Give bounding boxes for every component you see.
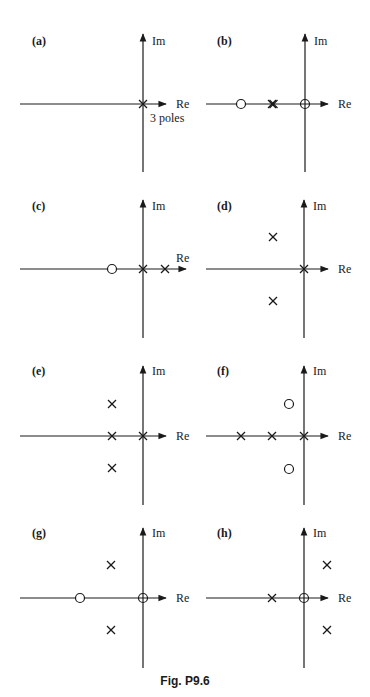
imag-axis-label: Im bbox=[314, 34, 328, 48]
plot-b: (b) Im Re bbox=[206, 34, 351, 172]
plot-f: (f) Im Re bbox=[206, 364, 351, 505]
plot-label: (c) bbox=[32, 199, 45, 213]
imag-axis-label: Im bbox=[313, 199, 327, 213]
zero-marker bbox=[76, 594, 85, 603]
imag-axis-label: Im bbox=[152, 364, 166, 378]
plot-label: (e) bbox=[32, 364, 45, 378]
pole-marker bbox=[269, 297, 277, 305]
real-axis-label: Re bbox=[338, 429, 351, 443]
pole-marker bbox=[108, 464, 116, 472]
pole-marker bbox=[323, 626, 331, 634]
figure-caption: Fig. P9.6 bbox=[0, 674, 370, 688]
plot-label: (f) bbox=[217, 364, 229, 378]
zero-marker bbox=[237, 100, 246, 109]
real-axis-label: Re bbox=[176, 429, 189, 443]
plot-label: (d) bbox=[217, 199, 232, 213]
pole-marker bbox=[107, 626, 115, 634]
plot-e: (e) Im Re bbox=[20, 364, 189, 505]
pole-zero-figure: (a) Im Re 3 poles (b) Im Re (c) Im Re bbox=[0, 0, 370, 697]
real-axis-label: Re bbox=[176, 591, 189, 605]
plot-label: (h) bbox=[217, 526, 232, 540]
zero-marker bbox=[108, 265, 117, 274]
imag-axis-label: Im bbox=[152, 199, 166, 213]
imag-axis-label: Im bbox=[313, 364, 327, 378]
plot-d: (d) Im Re bbox=[206, 199, 351, 338]
pole-marker bbox=[269, 233, 277, 241]
real-axis-label: Re bbox=[338, 262, 351, 276]
plot-label: (b) bbox=[217, 34, 232, 48]
zero-marker bbox=[285, 465, 294, 474]
plot-g: (g) Im Re bbox=[20, 526, 189, 668]
pole-marker bbox=[108, 400, 116, 408]
zero-marker bbox=[285, 400, 294, 409]
real-axis-label: Re bbox=[338, 591, 351, 605]
imag-axis-label: Im bbox=[152, 34, 166, 48]
plot-h: (h) Im Re bbox=[206, 526, 351, 668]
pole-marker bbox=[107, 561, 115, 569]
imag-axis-label: Im bbox=[152, 526, 166, 540]
plot-label: (g) bbox=[32, 526, 46, 540]
plot-c: (c) Im Re bbox=[20, 199, 189, 338]
real-axis-label: Re bbox=[338, 97, 351, 111]
pole-marker bbox=[323, 561, 331, 569]
pole-annotation: 3 poles bbox=[150, 111, 185, 125]
plot-a: (a) Im Re 3 poles bbox=[20, 34, 189, 172]
imag-axis-label: Im bbox=[313, 526, 327, 540]
plot-label: (a) bbox=[32, 34, 46, 48]
real-axis-label: Re bbox=[176, 97, 189, 111]
real-axis-label: Re bbox=[176, 251, 189, 265]
